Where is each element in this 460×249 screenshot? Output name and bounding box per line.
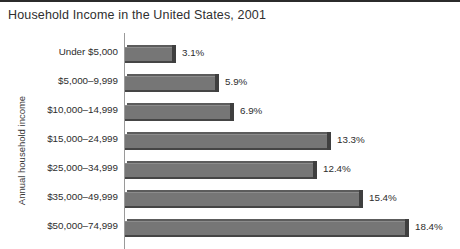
bar-bottom-edge: [125, 61, 172, 63]
bar-end-cap: [327, 132, 331, 150]
bar-end-cap: [230, 103, 234, 121]
chart-title: Household Income in the United States, 2…: [8, 8, 266, 22]
bar: [125, 132, 331, 151]
category-label: $5,000–9,999: [58, 75, 118, 86]
bar: [125, 45, 176, 64]
category-label: $15,000–24,999: [47, 133, 118, 144]
bar: [125, 103, 234, 122]
bar-bottom-edge: [125, 177, 313, 179]
category-label: $50,000–74,999: [47, 220, 118, 231]
bar-row: $15,000–24,99913.3%: [0, 129, 460, 158]
value-label: 3.1%: [182, 47, 204, 58]
bar: [125, 161, 317, 180]
bar: [125, 219, 409, 238]
bar-end-cap: [215, 74, 219, 92]
bar-bottom-edge: [125, 90, 215, 92]
bar: [125, 190, 363, 209]
bar-bottom-edge: [125, 148, 327, 150]
bar-end-cap: [405, 219, 409, 237]
bar-row: $35,000–49,99915.4%: [0, 187, 460, 216]
category-label: $10,000–14,999: [47, 104, 118, 115]
value-label: 13.3%: [337, 134, 365, 145]
category-label: Under $5,000: [59, 46, 118, 57]
value-label: 12.4%: [323, 163, 351, 174]
bar-face: [125, 192, 359, 207]
bar: [125, 74, 219, 93]
value-label: 18.4%: [415, 221, 443, 232]
chart-figure: Household Income in the United States, 2…: [0, 0, 460, 249]
bar-end-cap: [359, 190, 363, 208]
bar-row: $50,000–74,99918.4%: [0, 216, 460, 245]
bar-row: Under $5,0003.1%: [0, 42, 460, 71]
bar-bottom-edge: [125, 235, 405, 237]
bar-face: [125, 221, 405, 236]
bar-face: [125, 105, 230, 120]
bar-face: [125, 47, 172, 62]
bar-end-cap: [313, 161, 317, 179]
value-label: 5.9%: [225, 76, 247, 87]
bar-row: $10,000–14,9996.9%: [0, 100, 460, 129]
category-label: $35,000–49,999: [47, 191, 118, 202]
plot-area: Under $5,0003.1%$5,000–9,9995.9%$10,000–…: [0, 33, 460, 249]
bar-end-cap: [172, 45, 176, 63]
bar-row: $25,000–34,99912.4%: [0, 158, 460, 187]
bar-bottom-edge: [125, 206, 359, 208]
bar-row: $5,000–9,9995.9%: [0, 71, 460, 100]
bar-face: [125, 76, 215, 91]
bar-face: [125, 134, 327, 149]
value-label: 15.4%: [369, 192, 397, 203]
category-label: $25,000–34,999: [47, 162, 118, 173]
value-label: 6.9%: [240, 105, 262, 116]
bar-bottom-edge: [125, 119, 230, 121]
bar-face: [125, 163, 313, 178]
top-rule-divider: [0, 0, 460, 2]
